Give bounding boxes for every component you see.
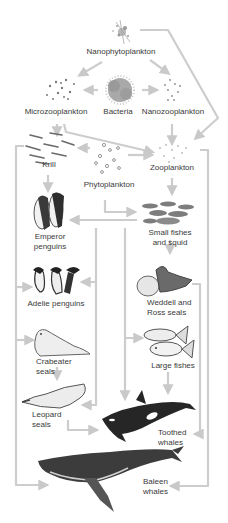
bacteria-icon bbox=[106, 76, 134, 104]
label-weddell-ross-seals: Weddell and Ross seals bbox=[147, 298, 203, 317]
microzooplankton-icon bbox=[46, 79, 75, 100]
emperor-penguins-icon bbox=[34, 192, 64, 230]
label-crabeater-seals: Crabeater seals bbox=[36, 357, 84, 376]
label-large-fishes: Large fishes bbox=[146, 361, 200, 371]
zooplankton-icon bbox=[159, 144, 187, 163]
adelie-penguins-icon bbox=[33, 267, 80, 294]
label-krill: Krill bbox=[38, 160, 60, 170]
crabeater-seal-icon bbox=[35, 330, 90, 356]
label-bacteria: Bacteria bbox=[100, 107, 136, 117]
label-phytoplankton: Phytoplankton bbox=[80, 180, 138, 190]
small-fishes-squid-icon bbox=[142, 202, 194, 225]
label-emperor-penguins: Emperor penguins bbox=[28, 232, 72, 251]
large-fishes-icon bbox=[144, 326, 194, 358]
weddell-ross-seals-icon bbox=[137, 266, 192, 296]
label-baleen-whales: Baleen whales bbox=[143, 477, 183, 496]
nanophytoplankton-icon bbox=[112, 20, 130, 44]
label-small-fishes-squid: Small fishes and squid bbox=[142, 228, 198, 247]
label-nanozooplankton: Nanozooplankton bbox=[139, 107, 207, 117]
label-toothed-whales: Toothed whales bbox=[158, 428, 198, 447]
label-microzooplankton: Microzooplankton bbox=[22, 107, 90, 117]
label-leopard-seals: Leopard seals bbox=[32, 410, 72, 429]
label-zooplankton: Zooplankton bbox=[145, 163, 199, 173]
label-nanophytoplankton: Nanophytoplankton bbox=[76, 47, 166, 57]
nanozooplankton-icon bbox=[164, 79, 181, 101]
phytoplankton-icon bbox=[95, 143, 121, 173]
label-adelie-penguins: Adelie penguins bbox=[24, 299, 88, 309]
food-web-diagram: Nanophytoplankton Microzooplankton Bacte… bbox=[0, 0, 228, 523]
leopard-seal-icon bbox=[22, 384, 85, 408]
